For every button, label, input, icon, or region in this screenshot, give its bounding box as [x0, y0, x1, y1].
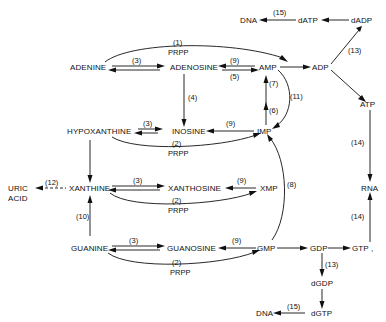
node-guanosine: GUANOSINE: [167, 244, 216, 253]
label-reaction-3-xanthine: (3): [133, 176, 142, 185]
node-inosine: INOSINE: [172, 127, 206, 136]
label-reaction-2-xanthine: (2): [172, 196, 181, 205]
node-datp: dATP: [298, 16, 318, 25]
label-reaction-5: (5): [230, 72, 239, 81]
label-reaction-2-guanine: (2): [172, 258, 181, 267]
node-dna-top: DNA: [240, 16, 257, 25]
node-hypoxanthine: HYPOXANTHINE: [67, 127, 131, 136]
label-reaction-1: (1): [173, 38, 182, 47]
label-prpp-xanthine: PRPP: [168, 206, 188, 215]
label-reaction-14-bottom: (14): [351, 212, 364, 221]
node-atp: ATP: [360, 100, 375, 109]
label-reaction-9-xanthosine: (9): [237, 176, 246, 185]
label-reaction-10: (10): [76, 212, 89, 221]
node-dgtp: dGTP: [311, 309, 332, 318]
label-reaction-9-guanosine: (9): [232, 236, 241, 245]
label-reaction-4: (4): [188, 93, 197, 102]
node-gdp: GDP: [310, 244, 328, 253]
node-dna-bottom: DNA: [256, 309, 273, 318]
node-xmp: XMP: [260, 184, 278, 193]
label-reaction-11: (11): [290, 92, 303, 101]
label-reaction-15-bottom: (15): [287, 302, 300, 311]
label-reaction-12: (12): [45, 178, 58, 187]
label-reaction-15-top: (15): [273, 8, 286, 17]
node-amp: AMP: [259, 63, 277, 72]
node-dgdp: dGDP: [311, 279, 333, 288]
node-dadp: dADP: [351, 16, 372, 25]
label-reaction-7: (7): [269, 79, 278, 88]
node-rna: RNA: [361, 184, 378, 193]
label-reaction-14-top: (14): [351, 138, 364, 147]
node-gmp: GMP: [257, 244, 276, 253]
label-prpp-guanine: PRPP: [170, 268, 190, 277]
label-prpp-hypoxanthine: PRPP: [168, 149, 188, 158]
label-reaction-9-adenosine: (9): [230, 56, 239, 65]
node-gtp: GTP ,: [352, 244, 373, 253]
node-imp: IMP: [257, 127, 272, 136]
node-adenine: ADENINE: [70, 63, 106, 72]
node-adenosine: ADENOSINE: [170, 63, 218, 72]
label-reaction-13-top: (13): [348, 46, 361, 55]
pathway-arrows: [0, 0, 386, 322]
label-prpp-adenine: PRPP: [168, 48, 188, 57]
label-reaction-13-bottom: (13): [325, 260, 338, 269]
node-xanthine: XANTHINE: [69, 184, 110, 193]
node-uric-acid-line2: ACID: [8, 194, 28, 203]
node-adp: ADP: [312, 63, 329, 72]
label-reaction-9-inosine: (9): [226, 119, 235, 128]
purine-metabolism-diagram: ADENINE ADENOSINE AMP ADP ATP dADP dATP …: [0, 0, 386, 322]
label-reaction-3-hypoxanthine: (3): [143, 119, 152, 128]
node-uric-acid-line1: URIC: [8, 184, 28, 193]
node-guanine: GUANINE: [71, 244, 108, 253]
node-xanthosine: XANTHOSINE: [168, 184, 221, 193]
label-reaction-8: (8): [287, 180, 296, 189]
label-reaction-3-guanine: (3): [129, 236, 138, 245]
label-reaction-3-adenine: (3): [132, 56, 141, 65]
label-reaction-2-hypoxanthine: (2): [172, 139, 181, 148]
label-reaction-6: (6): [269, 106, 278, 115]
